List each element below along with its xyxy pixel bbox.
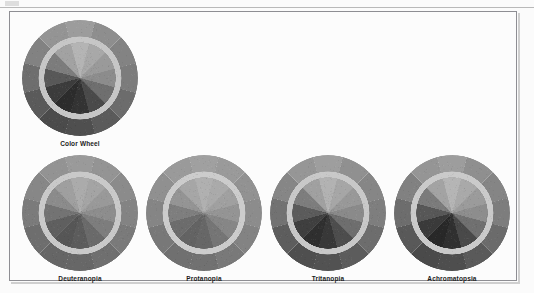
wheel-label-deuteranopia: Deuteranopia — [22, 274, 138, 283]
scan-artifact-mark — [5, 1, 19, 6]
wheel-cell-color-wheel: Color Wheel — [22, 20, 138, 148]
wheel-label-color-wheel: Color Wheel — [22, 139, 138, 148]
wheel-label-tritanopia: Tritanopia — [270, 274, 386, 283]
wheel-label-protanopia: Protanopia — [146, 274, 262, 283]
color-wheel-color-wheel — [22, 20, 138, 136]
figure-frame-shadow-right — [518, 13, 520, 283]
color-wheel-protanopia — [146, 155, 262, 271]
wheel-cell-deuteranopia: Deuteranopia — [22, 155, 138, 283]
wheel-cell-tritanopia: Tritanopia — [270, 155, 386, 283]
color-wheel-deuteranopia — [22, 155, 138, 271]
wheel-cell-achromatopsia: Achromatopsia — [394, 155, 510, 283]
color-wheel-achromatopsia — [394, 155, 510, 271]
page-top-rule — [0, 7, 534, 8]
color-wheel-tritanopia — [270, 155, 386, 271]
wheel-label-achromatopsia: Achromatopsia — [394, 274, 510, 283]
wheel-cell-protanopia: Protanopia — [146, 155, 262, 283]
